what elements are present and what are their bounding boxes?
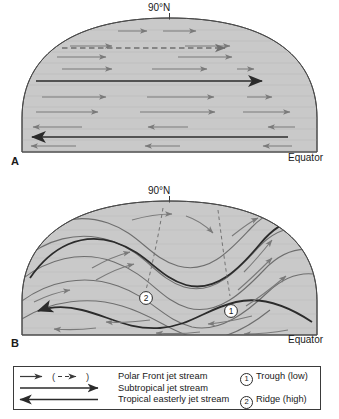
panel-b-marker-trough: 1 bbox=[225, 305, 238, 318]
panel-b-svg-wrap: 2 1 bbox=[0, 180, 339, 358]
panel-b-meridional-flow: 2 1 bbox=[0, 180, 339, 358]
legend-circle-1: 1 bbox=[240, 373, 253, 386]
panel-b-marker-ridge: 2 bbox=[140, 292, 153, 305]
svg-text:): ) bbox=[86, 371, 89, 382]
equator-label-a: Equator bbox=[288, 152, 323, 163]
pole-label-b: 90°N bbox=[148, 185, 170, 196]
pole-label-a: 90°N bbox=[148, 2, 170, 13]
legend-circle-2: 2 bbox=[240, 396, 253, 409]
legend-label-polar-front: Polar Front jet stream bbox=[118, 371, 207, 382]
svg-text:2: 2 bbox=[144, 293, 149, 303]
panel-a-zonal-flow: 90°N Equator bbox=[0, 0, 339, 180]
panel-b-dome bbox=[22, 201, 317, 335]
legend-marker-ridge-label: Ridge (high) bbox=[256, 394, 307, 404]
legend-box: ( ) Polar Front jet stream Subtropical j… bbox=[13, 366, 321, 410]
legend-marker-trough-label: Trough (low) bbox=[256, 371, 308, 381]
legend-label-subtropical: Subtropical jet stream bbox=[118, 383, 208, 394]
svg-text:(: ( bbox=[52, 371, 56, 382]
svg-text:1: 1 bbox=[229, 306, 234, 316]
legend-marker-ridge: 2Ridge (high) bbox=[240, 394, 307, 409]
legend-inner: ( ) Polar Front jet stream Subtropical j… bbox=[14, 367, 320, 409]
panel-letter-b: B bbox=[11, 337, 19, 349]
equator-label-b: Equator bbox=[288, 334, 323, 345]
legend-marker-trough: 1Trough (low) bbox=[240, 371, 308, 386]
legend-label-tropical-easterly: Tropical easterly jet stream bbox=[118, 394, 229, 405]
legend-symbol-polar-front: ( ) bbox=[20, 371, 89, 382]
panel-letter-a: A bbox=[11, 155, 19, 167]
panel-b-diagram: 2 1 bbox=[0, 180, 339, 358]
